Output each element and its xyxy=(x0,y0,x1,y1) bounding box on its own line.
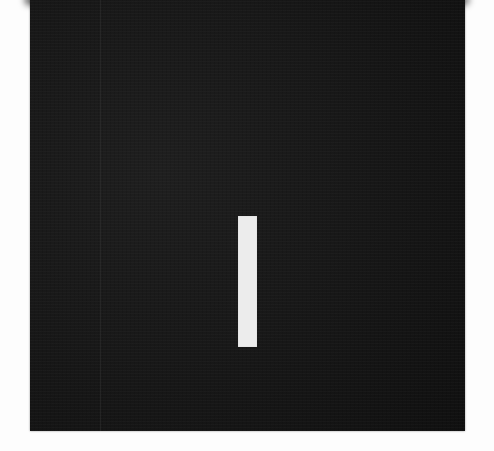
white-vertical-bar xyxy=(238,216,257,347)
panel-seam xyxy=(100,0,101,431)
image-scene xyxy=(0,0,494,451)
black-panel xyxy=(30,0,465,431)
